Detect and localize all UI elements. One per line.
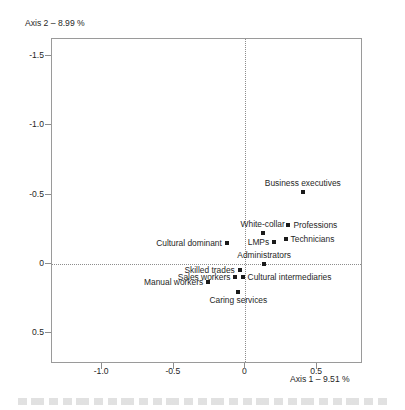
x-tick-mark [173,363,174,369]
y-tick-label: -1.0 [12,119,44,129]
data-point-marker [206,280,210,284]
data-point-marker [233,275,237,279]
data-point-marker [272,240,276,244]
data-point-marker [301,190,305,194]
data-point-label: Administrators [237,251,291,260]
data-point-label: Technicians [291,235,335,244]
y-tick-label: -0.5 [12,189,44,199]
correspondence-analysis-figure: Axis 2 – 8.99 % Axis 1 – 9.51 % -1.5-1.0… [0,0,405,410]
caption-text-fragment [18,398,388,405]
data-point-label: Cultural dominant [156,239,222,248]
data-point-label: Manual workers [144,278,203,287]
x-tick-mark [101,363,102,369]
data-point-marker [262,262,266,266]
data-point-marker [225,241,229,245]
data-point-label: White-collar [241,220,285,229]
data-point-label: Business executives [265,179,341,188]
data-point-marker [286,223,290,227]
plot-area: Business executivesProfessionsWhite-coll… [51,38,362,363]
data-point-marker [238,268,242,272]
data-point-label: LMPs [248,237,269,246]
zero-line-vertical [245,39,246,362]
data-point-label: Professions [293,221,337,230]
y-tick-label: 0 [12,258,44,268]
x-tick-mark [244,363,245,369]
data-point-label: Cultural intermediaries [248,272,332,281]
data-point-marker [241,275,245,279]
data-point-marker [284,237,288,241]
data-point-marker [236,290,240,294]
y-tick-label: 0.5 [12,327,44,337]
y-tick-label: -1.5 [12,50,44,60]
y-axis-title: Axis 2 – 8.99 % [25,18,85,28]
x-tick-mark [316,363,317,369]
data-point-marker [261,231,265,235]
data-point-label: Caring services [209,296,267,305]
